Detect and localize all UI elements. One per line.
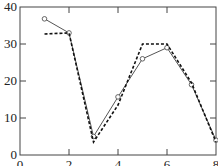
plot-border [20, 7, 216, 155]
x-tick-label: 6 [164, 157, 171, 166]
tick-labels: 02468010203040 [4, 0, 218, 166]
series-layer [42, 17, 218, 143]
plot-frame [20, 7, 216, 155]
x-tick-label: 0 [17, 157, 24, 166]
y-tick-label: 40 [4, 0, 17, 14]
y-tick-label: 30 [4, 36, 17, 51]
x-tick-label: 4 [115, 157, 122, 166]
line-chart: 02468010203040 [0, 0, 218, 166]
y-tick-label: 0 [11, 147, 18, 162]
data-point-marker [116, 95, 121, 100]
data-point-marker [42, 17, 47, 22]
data-point-marker [140, 57, 145, 62]
y-tick-label: 10 [4, 110, 17, 125]
solid-series-line [45, 19, 217, 140]
x-tick-label: 8 [213, 157, 218, 166]
x-tick-label: 2 [66, 157, 73, 166]
dashed-series-line [45, 33, 217, 142]
y-tick-label: 20 [4, 73, 17, 88]
